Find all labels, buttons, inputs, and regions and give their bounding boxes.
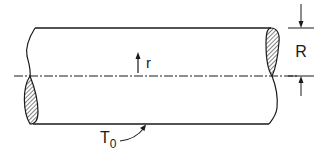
right-hatched-section (266, 28, 279, 76)
right-break-curve (269, 76, 277, 124)
surface-temperature-label: T0 (100, 129, 117, 151)
left-hatched-section (24, 76, 38, 124)
radial-label: r (146, 54, 151, 71)
temperature-symbol: T (100, 129, 110, 146)
left-break-curve (27, 28, 35, 76)
temperature-subscript: 0 (110, 137, 117, 151)
radial-arrow (136, 52, 141, 73)
surface-temperature-leader (120, 125, 146, 142)
radius-label: R (295, 43, 307, 60)
cylinder-diagram: r T0 R (0, 0, 326, 159)
